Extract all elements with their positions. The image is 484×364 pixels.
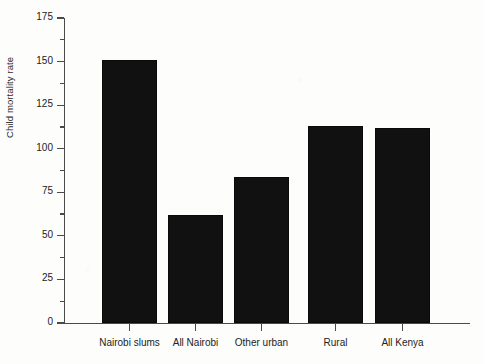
bar	[102, 60, 157, 323]
x-axis-tick-label: All Nairobi	[173, 337, 219, 348]
y-axis-minor-tick	[60, 213, 65, 214]
y-axis-minor-tick	[60, 170, 65, 171]
x-axis-tick	[129, 324, 130, 331]
y-axis-tick	[57, 148, 64, 149]
y-axis-tick	[57, 279, 64, 280]
x-axis-tick-label: Other urban	[235, 337, 288, 348]
y-axis-minor-tick	[60, 257, 65, 258]
y-axis-tick-label: 25	[20, 272, 53, 283]
bar-chart: Child mortality rate 0255075100125150175…	[0, 0, 484, 364]
x-axis-tick-label: Rural	[324, 337, 348, 348]
y-axis-tick-label: 125	[20, 98, 53, 109]
y-axis-tick	[57, 61, 64, 62]
y-axis-tick-label: 0	[20, 316, 53, 327]
y-axis-tick-label: 100	[20, 142, 53, 153]
y-axis-tick	[57, 322, 64, 323]
y-axis-minor-tick	[60, 39, 65, 40]
y-axis-minor-tick	[60, 301, 65, 302]
x-axis-tick	[261, 324, 262, 331]
bar	[375, 128, 430, 323]
y-axis-minor-tick	[60, 83, 65, 84]
y-axis-tick	[57, 105, 64, 106]
y-axis-tick-label: 75	[20, 185, 53, 196]
y-axis-line	[64, 18, 65, 324]
x-axis-tick	[335, 324, 336, 331]
y-axis-minor-tick	[60, 126, 65, 127]
x-axis-tick-label: All Kenya	[381, 337, 423, 348]
y-axis-tick	[57, 17, 64, 18]
y-axis-tick-label: 175	[20, 11, 53, 22]
x-axis-tick	[402, 324, 403, 331]
y-axis-tick	[57, 235, 64, 236]
x-axis-tick	[195, 324, 196, 331]
bar	[308, 126, 363, 323]
y-axis-tick-label: 150	[20, 55, 53, 66]
y-axis-title: Child mortality rate	[4, 18, 15, 138]
y-axis-tick	[57, 192, 64, 193]
y-axis-tick-label: 50	[20, 229, 53, 240]
bar	[168, 215, 223, 323]
bar	[234, 177, 289, 323]
x-axis-tick-label: Nairobi slums	[99, 337, 160, 348]
